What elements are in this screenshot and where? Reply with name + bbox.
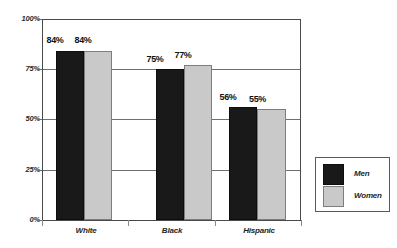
value-label-black-women: 77% <box>169 51 197 60</box>
bar-black-women <box>184 65 212 220</box>
y-tick-label-100: 100% <box>4 15 40 23</box>
x-tick-mark-2 <box>215 220 216 226</box>
legend: Men Women <box>315 157 390 212</box>
y-tick-label-75: 75% <box>4 65 40 73</box>
legend-swatch-men-icon <box>323 164 344 185</box>
x-category-label-black: Black <box>129 227 215 235</box>
value-label-hispanic-men: 56% <box>214 93 242 102</box>
y-tick-label-0: 0% <box>4 216 40 224</box>
y-tick-label-50: 50% <box>4 115 40 123</box>
bar-black-men <box>156 69 184 220</box>
gridline-0 <box>42 220 301 221</box>
y-tick-label-25: 25% <box>4 166 40 174</box>
value-label-white-women: 84% <box>69 36 97 45</box>
value-label-white-men: 84% <box>41 36 69 45</box>
x-tick-mark-0 <box>42 220 43 226</box>
value-label-black-men: 75% <box>141 55 169 64</box>
bar-hispanic-women <box>257 109 286 220</box>
x-tick-mark-1 <box>128 220 129 226</box>
legend-swatch-women-icon <box>323 186 344 207</box>
plot-area <box>42 19 301 220</box>
bar-white-women <box>84 51 112 220</box>
bar-chart: 100% 75% 50% 25% 0% <box>0 0 397 248</box>
legend-label-men: Men <box>354 170 369 178</box>
bar-white-men <box>56 51 84 220</box>
bar-hispanic-men <box>229 107 257 220</box>
value-label-hispanic-women: 55% <box>243 95 272 104</box>
x-tick-mark-3 <box>301 220 302 226</box>
x-category-label-white: White <box>43 227 129 235</box>
x-category-label-hispanic: Hispanic <box>216 227 302 235</box>
legend-label-women: Women <box>354 192 382 200</box>
